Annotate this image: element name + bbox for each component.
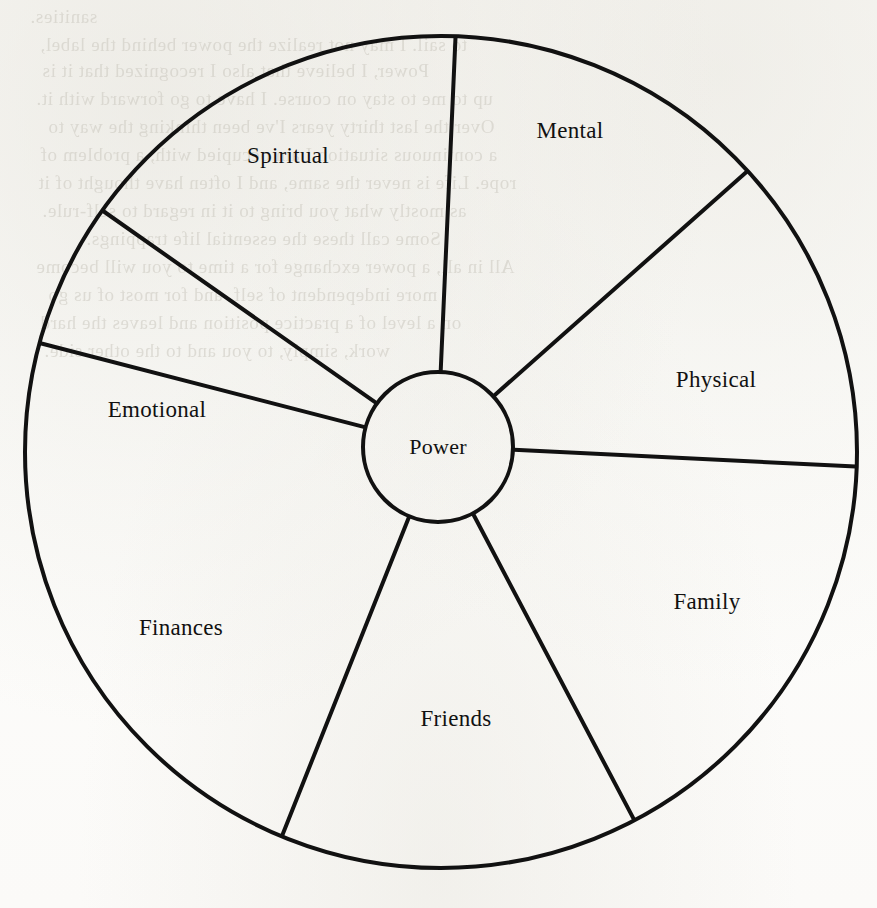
sector-label-physical: Physical bbox=[676, 367, 756, 393]
spoke-line bbox=[441, 37, 456, 371]
spoke-line bbox=[494, 172, 747, 396]
sector-label-family: Family bbox=[674, 589, 741, 615]
spoke-line bbox=[514, 450, 856, 467]
sector-label-mental: Mental bbox=[537, 118, 604, 144]
sector-label-spiritual: Spiritual bbox=[247, 143, 329, 169]
spoke-line bbox=[103, 211, 376, 403]
spoke-line bbox=[473, 514, 634, 819]
spoke-line bbox=[282, 517, 409, 835]
sector-label-friends: Friends bbox=[420, 706, 491, 732]
sector-label-emotional: Emotional bbox=[108, 397, 207, 423]
scanned-page: sanities.to sail. I may not realize the … bbox=[0, 0, 877, 908]
hub-label-power: Power bbox=[409, 434, 467, 460]
sector-label-finances: Finances bbox=[139, 615, 223, 641]
